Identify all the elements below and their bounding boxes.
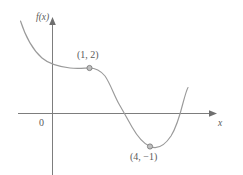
point-marker-1-2 (87, 65, 92, 70)
origin-label: 0 (39, 118, 44, 128)
point-marker-4-minus1 (147, 144, 152, 149)
y-axis-label: f(x) (36, 13, 49, 23)
x-axis-arrowhead (209, 110, 217, 117)
point-label-1-2: (1, 2) (77, 50, 99, 60)
x-axis (18, 110, 217, 117)
y-axis-arrowhead (49, 17, 56, 25)
x-axis-label: x (218, 119, 222, 129)
point-label-4-minus1: (4, −1) (130, 152, 157, 162)
y-axis (49, 17, 56, 175)
function-graph-figure: f(x) x 0 (1, 2) (4, −1) (0, 0, 243, 175)
function-curve (21, 21, 189, 148)
plot-canvas (0, 0, 243, 175)
